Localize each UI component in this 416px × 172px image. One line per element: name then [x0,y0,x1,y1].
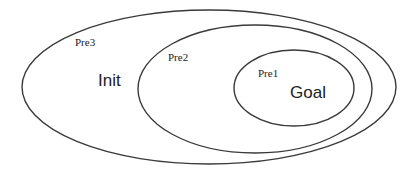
pre1-label: Pre1 [258,67,278,79]
pre2-ellipse [138,25,372,153]
pre3-label: Pre3 [75,36,96,48]
goal-label: Goal [290,83,326,102]
pre2-label: Pre2 [168,51,188,63]
nested-sets-diagram: Pre3 Init Pre2 Pre1 Goal [0,0,416,172]
pre3-ellipse [22,10,396,164]
init-label: Init [98,71,121,90]
